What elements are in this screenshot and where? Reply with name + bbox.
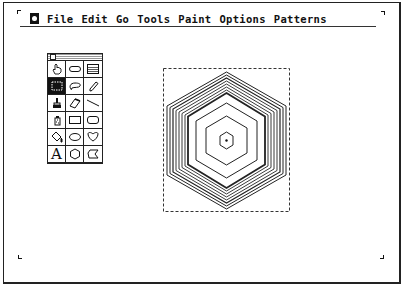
line-icon [86, 97, 100, 109]
concentric-hexagons [167, 72, 286, 209]
tool-regular-polygon[interactable] [66, 146, 84, 163]
tool-polygon[interactable] [84, 146, 102, 163]
oval-icon [68, 131, 82, 143]
menu-paint[interactable]: Paint [178, 13, 211, 25]
paint-bucket-icon [50, 131, 64, 143]
menu-patterns[interactable]: Patterns [274, 13, 327, 25]
button-icon [68, 63, 82, 75]
corner-marker-bottom-left [18, 255, 22, 259]
tools-palette[interactable]: A [47, 53, 103, 164]
curve-icon [86, 131, 100, 143]
menu-options[interactable]: Options [219, 13, 265, 25]
tool-lasso[interactable] [66, 78, 84, 95]
palette-title-bar[interactable] [48, 54, 102, 61]
palette-close-box[interactable] [50, 54, 56, 60]
irregular-polygon-icon [86, 148, 100, 160]
paint-canvas-drawing[interactable] [163, 68, 290, 212]
lasso-icon [68, 80, 82, 92]
menu-edit[interactable]: Edit [82, 13, 109, 25]
tool-curve[interactable] [84, 129, 102, 146]
corner-marker-bottom-right [380, 255, 384, 259]
tool-brush[interactable] [48, 95, 66, 112]
brush-icon [50, 97, 64, 109]
corner-marker-top-right [381, 11, 385, 15]
apple-menu-icon[interactable] [30, 13, 39, 24]
tool-rectangle[interactable] [66, 112, 84, 129]
hand-icon [50, 63, 64, 75]
tool-round-rect[interactable] [84, 112, 102, 129]
menu-tools[interactable]: Tools [137, 13, 170, 25]
text-icon: A [51, 147, 62, 162]
tool-select[interactable] [48, 78, 66, 95]
eraser-icon [68, 97, 82, 109]
polygon-icon [68, 148, 82, 160]
rounded-rectangle-icon [86, 114, 100, 126]
tool-spray[interactable] [48, 112, 66, 129]
spray-can-icon [50, 114, 64, 126]
tool-oval[interactable] [66, 129, 84, 146]
tool-text[interactable]: A [48, 146, 66, 163]
menu-file[interactable]: File [47, 13, 74, 25]
menu-bar: File Edit Go Tools Paint Options Pattern… [20, 11, 376, 27]
field-icon [86, 63, 100, 75]
tool-eraser[interactable] [66, 95, 84, 112]
tool-bucket[interactable] [48, 129, 66, 146]
tools-grid: A [48, 61, 102, 163]
tool-field[interactable] [84, 61, 102, 78]
tool-line[interactable] [84, 95, 102, 112]
menu-go[interactable]: Go [116, 13, 129, 25]
rectangle-icon [68, 114, 82, 126]
pencil-icon [86, 80, 100, 92]
tool-button[interactable] [66, 61, 84, 78]
tool-pencil[interactable] [84, 78, 102, 95]
tool-browse[interactable] [48, 61, 66, 78]
select-icon [50, 80, 64, 92]
